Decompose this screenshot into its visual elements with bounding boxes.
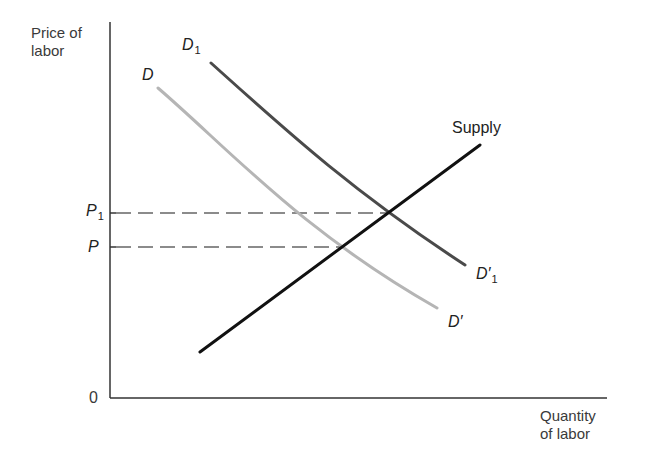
demand-curve-d [158, 88, 437, 308]
origin-label: 0 [89, 389, 98, 407]
d-end-label: D′ [448, 313, 463, 331]
d1-end-label: D′1 [476, 265, 498, 284]
p1-label-main: P [86, 202, 97, 219]
supply-label: Supply [452, 119, 501, 137]
x-axis-label-line2: of labor [540, 425, 596, 443]
d-start-label: D [142, 66, 154, 84]
d1-end-label-sub: 1 [492, 273, 498, 285]
p1-label: P1 [86, 202, 104, 221]
d1-start-label-main: D [182, 36, 194, 53]
y-axis-label: Price of labor [31, 24, 82, 60]
d1-end-label-main: D′ [476, 265, 491, 282]
y-axis-label-line1: Price of [31, 24, 82, 42]
d1-start-label: D1 [182, 36, 201, 55]
x-axis-label: Quantity of labor [540, 407, 596, 443]
x-axis-label-line1: Quantity [540, 407, 596, 425]
y-axis-label-line2: labor [31, 42, 82, 60]
p1-label-sub: 1 [98, 210, 104, 222]
demand-curve-d1 [211, 63, 465, 265]
d1-start-label-sub: 1 [195, 44, 201, 56]
p-label: P [88, 238, 99, 256]
